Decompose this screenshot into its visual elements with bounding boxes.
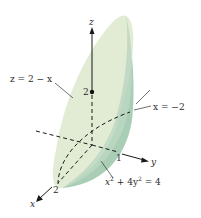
arrow-up-icon [90,27,95,34]
x-axis [36,187,52,202]
boundary-plane-label: x = −2 [153,102,185,112]
eq-mid: + 4y [114,177,139,187]
eq-rhs: = 4 [142,177,161,187]
y-axis-label: y [150,157,157,167]
z-intercept-point [90,90,94,94]
x-axis-label: x [30,199,35,209]
x-tick-label: 2 [53,185,59,195]
arrow-right-icon [141,158,149,163]
y-tick-label: 1 [116,153,122,163]
solid-region-diagram: z 2 z = 2 − x x = −2 1 y 2 x x2 + 4y2 = … [0,0,201,218]
plane-equation-label: z = 2 − x [10,74,52,84]
y-axis [122,154,149,163]
z-intercept-label: 2 [83,87,89,97]
z-axis-label: z [88,17,94,27]
cylinder-equation-label: x2 + 4y2 = 4 [105,175,161,187]
